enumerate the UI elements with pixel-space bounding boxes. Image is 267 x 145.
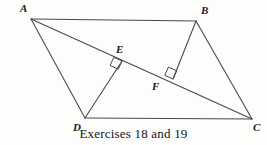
vertex-label-a: A (20, 3, 27, 14)
figure-caption: Exercises 18 and 19 (0, 126, 267, 142)
vertex-label-e: E (116, 44, 123, 55)
vertex-label-f: F (152, 81, 159, 92)
side-DC (85, 118, 252, 119)
vertex-label-b: B (201, 5, 208, 16)
side-AB (31, 19, 196, 21)
altitude-DE (85, 61, 122, 118)
side-BC (196, 21, 252, 119)
geometry-figure-page: ABCDEF Exercises 18 and 19 (0, 0, 267, 145)
diagonal-AC (31, 19, 252, 119)
side-AD (31, 19, 85, 118)
geometry-diagram (0, 0, 267, 145)
